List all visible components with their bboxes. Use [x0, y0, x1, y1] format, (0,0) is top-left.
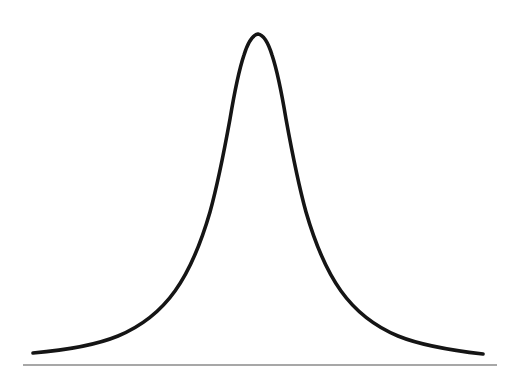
bell-curve-figure	[0, 0, 523, 387]
bell-curve-path	[33, 34, 483, 354]
bell-curve-canvas	[0, 0, 523, 387]
